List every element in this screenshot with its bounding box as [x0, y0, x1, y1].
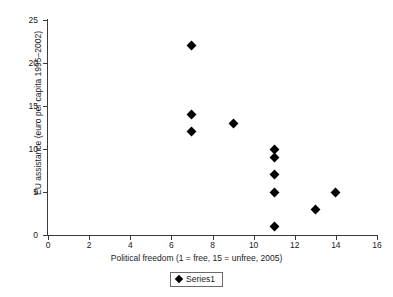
legend-entry-label: Series1	[186, 274, 215, 284]
data-point	[310, 204, 320, 214]
x-tick-label: 0	[38, 241, 58, 250]
x-tick-label: 6	[161, 241, 181, 250]
y-tick-label: 0	[18, 231, 38, 240]
x-axis-title: Political freedom (1 = free, 15 = unfree…	[0, 253, 393, 263]
y-tick	[43, 106, 47, 107]
data-point	[269, 153, 279, 163]
x-tick-label: 14	[326, 241, 346, 250]
legend-inner: Series1	[170, 272, 223, 287]
data-point	[269, 187, 279, 197]
x-tick-label: 16	[367, 241, 387, 250]
y-tick	[43, 63, 47, 64]
data-point	[331, 187, 341, 197]
y-tick	[43, 192, 47, 193]
scatter-chart: 0510152025 0246810121416 EU assistance (…	[0, 0, 393, 297]
diamond-marker-icon	[175, 275, 183, 283]
data-point	[269, 170, 279, 180]
data-point	[228, 118, 238, 128]
y-axis-title: EU assistance (euro per capita 1995–2002…	[33, 3, 43, 223]
x-tick-label: 2	[79, 241, 99, 250]
data-point	[269, 221, 279, 231]
x-tick-label: 8	[203, 241, 223, 250]
x-tick-label: 10	[244, 241, 264, 250]
x-tick-label: 12	[285, 241, 305, 250]
x-tick-label: 4	[120, 241, 140, 250]
y-tick	[43, 149, 47, 150]
data-point	[187, 110, 197, 120]
plot-area	[48, 20, 377, 235]
data-point	[187, 41, 197, 51]
y-tick	[43, 20, 47, 21]
data-point	[187, 127, 197, 137]
legend: Series1	[0, 272, 393, 287]
y-tick	[43, 235, 47, 236]
